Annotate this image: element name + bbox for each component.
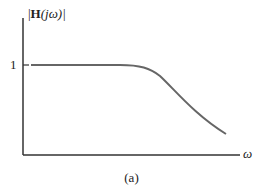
y-label-rest: (jω)| xyxy=(41,6,66,21)
x-axis-label: ω xyxy=(243,146,252,162)
magnitude-curve xyxy=(31,65,226,134)
y-label-bold-h: H xyxy=(31,6,41,21)
magnitude-response-figure: |H(jω)| 1 ω (a) xyxy=(0,0,263,194)
plot-canvas xyxy=(0,0,263,194)
figure-caption: (a) xyxy=(0,170,263,186)
y-tick-label: 1 xyxy=(10,57,17,73)
y-axis-label: |H(jω)| xyxy=(28,6,66,22)
